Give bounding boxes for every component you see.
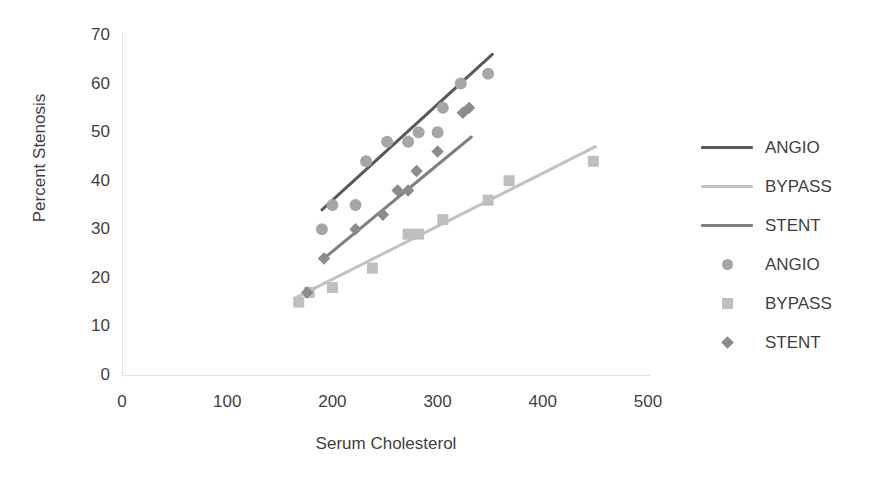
legend-label: STENT bbox=[765, 217, 821, 234]
plot-area bbox=[122, 35, 648, 375]
data-point bbox=[327, 282, 338, 293]
legend-square-marker-icon bbox=[722, 298, 733, 309]
legend-swatch bbox=[700, 294, 754, 314]
x-tick-400: 400 bbox=[513, 393, 573, 410]
data-point bbox=[413, 229, 424, 240]
data-point bbox=[437, 214, 448, 225]
legend-label: BYPASS bbox=[765, 295, 832, 312]
data-point bbox=[482, 68, 494, 80]
legend-swatch bbox=[700, 138, 754, 158]
data-point bbox=[588, 156, 599, 167]
x-tick-300: 300 bbox=[408, 393, 468, 410]
legend-line-swatch bbox=[701, 185, 753, 188]
legend-entry-circle-angio[interactable]: ANGIO bbox=[700, 245, 885, 284]
data-point bbox=[360, 155, 372, 167]
legend-label: ANGIO bbox=[765, 256, 820, 273]
data-point bbox=[431, 145, 443, 157]
legend-entry-square-bypass[interactable]: BYPASS bbox=[700, 284, 885, 323]
y-tick-70: 70 bbox=[64, 26, 110, 43]
y-tick-10: 10 bbox=[64, 317, 110, 334]
y-tick-20: 20 bbox=[64, 269, 110, 286]
data-point bbox=[432, 126, 444, 138]
data-point bbox=[350, 199, 362, 211]
legend-entry-line-bypass[interactable]: BYPASS bbox=[700, 167, 885, 206]
y-tick-30: 30 bbox=[64, 220, 110, 237]
x-axis-line bbox=[122, 375, 650, 376]
legend-swatch bbox=[700, 216, 754, 236]
legend-swatch bbox=[700, 177, 754, 197]
data-point bbox=[402, 136, 414, 148]
series-stent bbox=[301, 102, 475, 299]
legend-label: BYPASS bbox=[765, 178, 832, 195]
legend-label: ANGIO bbox=[765, 139, 820, 156]
x-tick-200: 200 bbox=[302, 393, 362, 410]
data-point bbox=[413, 126, 425, 138]
data-point bbox=[349, 223, 361, 235]
data-point bbox=[326, 199, 338, 211]
legend-circle-marker-icon bbox=[722, 259, 733, 270]
legend-entry-diamond-stent[interactable]: STENT bbox=[700, 323, 885, 362]
trendline-stent bbox=[324, 137, 471, 258]
data-point bbox=[504, 175, 515, 186]
data-point bbox=[403, 229, 414, 240]
data-point bbox=[455, 78, 467, 90]
x-tick-100: 100 bbox=[197, 393, 257, 410]
chart-legend: ANGIOBYPASSSTENTANGIOBYPASSSTENT bbox=[700, 128, 885, 362]
y-tick-40: 40 bbox=[64, 172, 110, 189]
data-point bbox=[483, 195, 494, 206]
y-tick-50: 50 bbox=[64, 123, 110, 140]
data-point bbox=[293, 297, 304, 308]
legend-swatch bbox=[700, 333, 754, 353]
legend-diamond-marker-icon bbox=[721, 336, 734, 349]
y-tick-0: 0 bbox=[64, 366, 110, 383]
y-tick-60: 60 bbox=[64, 75, 110, 92]
scatter-chart: 706050403020100 0100200300400500 Percent… bbox=[0, 0, 894, 495]
legend-line-swatch bbox=[701, 224, 753, 227]
x-tick-500: 500 bbox=[618, 393, 678, 410]
legend-entry-line-angio[interactable]: ANGIO bbox=[700, 128, 885, 167]
data-point bbox=[367, 263, 378, 274]
legend-entry-line-stent[interactable]: STENT bbox=[700, 206, 885, 245]
data-point bbox=[381, 136, 393, 148]
data-point bbox=[316, 223, 328, 235]
plot-canvas bbox=[122, 35, 648, 375]
x-axis-title: Serum Cholesterol bbox=[122, 434, 650, 454]
legend-swatch bbox=[700, 255, 754, 275]
legend-label: STENT bbox=[765, 334, 821, 351]
series-bypass bbox=[293, 156, 599, 308]
legend-line-swatch bbox=[701, 146, 753, 149]
y-axis-title: Percent Stenosis bbox=[30, 48, 50, 268]
data-point bbox=[410, 165, 422, 177]
x-tick-0: 0 bbox=[92, 393, 152, 410]
data-point bbox=[377, 209, 389, 221]
data-point bbox=[437, 102, 449, 114]
